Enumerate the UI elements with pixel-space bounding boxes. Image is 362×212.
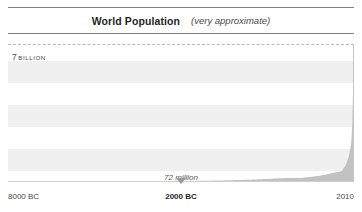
axis-baseline [8,181,354,182]
world-population-chart: World Population (very approximate) 7BIL… [0,0,362,212]
y-axis-label-7-billion: 7BILLION [12,47,46,63]
x-axis-label-start: 8000 BC [8,193,39,201]
x-axis-label-end: 2010 [336,193,354,201]
x-axis-labels: 8000 BC 2000 BC 2010 [8,193,354,207]
page-title: World Population [92,15,180,27]
y-axis-unit: BILLION [18,54,46,61]
chart-subtitle: (very approximate) [191,15,270,26]
chart-title-block: World Population (very approximate) [8,7,354,34]
axis-right [353,44,354,182]
plot-area [8,44,354,182]
population-curve [8,44,354,182]
y-axis-value: 7 [12,52,17,62]
x-axis-label-mid: 2000 BC [165,193,197,201]
